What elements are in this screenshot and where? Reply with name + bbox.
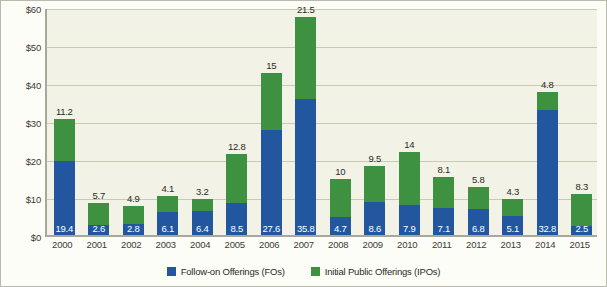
bar-stack[interactable]: 4.832.8 bbox=[537, 92, 558, 235]
x-axis-tick-label: 2012 bbox=[459, 239, 494, 250]
bar-group: 11.219.45.72.64.92.84.16.13.26.412.88.51… bbox=[47, 9, 597, 235]
bar-stack[interactable]: 5.86.8 bbox=[468, 187, 489, 235]
bar-segment-fo[interactable]: 6.4 bbox=[192, 211, 213, 235]
bar-stack[interactable]: 21.535.8 bbox=[295, 17, 316, 235]
bar-stack[interactable]: 4.35.1 bbox=[502, 199, 523, 235]
bar-segment-ipo[interactable]: 4.3 bbox=[502, 199, 523, 215]
bar-label-ipo: 10 bbox=[322, 166, 359, 179]
bar-segment-ipo[interactable]: 3.2 bbox=[192, 199, 213, 211]
x-axis-tick-label: 2001 bbox=[80, 239, 115, 250]
x-axis-tick-label: 2002 bbox=[114, 239, 149, 250]
bar-segment-ipo[interactable]: 4.9 bbox=[123, 206, 144, 225]
x-axis-tick-label: 2015 bbox=[563, 239, 598, 250]
y-axis-tick-label: $10 bbox=[26, 194, 41, 205]
bar-label-fo: 32.8 bbox=[537, 223, 558, 234]
bar-segment-fo[interactable]: 6.8 bbox=[468, 209, 489, 235]
bar-label-fo: 4.7 bbox=[330, 223, 351, 234]
bar-segment-fo[interactable]: 7.1 bbox=[433, 208, 454, 235]
bar-segment-fo[interactable]: 7.9 bbox=[399, 205, 420, 235]
bar-label-ipo: 5.7 bbox=[80, 190, 117, 203]
bar-stack[interactable]: 1527.6 bbox=[261, 73, 282, 235]
legend-item[interactable]: Follow-on Offerings (FOs) bbox=[167, 266, 285, 277]
bar-segment-ipo[interactable]: 8.3 bbox=[571, 194, 592, 226]
bar-segment-fo[interactable]: 4.7 bbox=[330, 217, 351, 235]
legend-swatch-icon bbox=[167, 267, 176, 276]
bar-segment-fo[interactable]: 2.5 bbox=[571, 226, 592, 236]
bar-segment-ipo[interactable]: 15 bbox=[261, 73, 282, 130]
bar-stack[interactable]: 12.88.5 bbox=[226, 154, 247, 235]
bar-segment-ipo[interactable]: 4.8 bbox=[537, 92, 558, 110]
bar-segment-ipo[interactable]: 10 bbox=[330, 179, 351, 217]
bar-segment-ipo[interactable]: 5.7 bbox=[88, 203, 109, 225]
bar-label-ipo: 15 bbox=[253, 60, 290, 73]
bar-label-ipo: 21.5 bbox=[287, 4, 324, 17]
y-axis-tick-label: $30 bbox=[26, 118, 41, 129]
bar-stack[interactable]: 9.58.6 bbox=[364, 166, 385, 235]
legend-label: Initial Public Offerings (IPOs) bbox=[325, 266, 441, 277]
y-axis-tick-label: $40 bbox=[26, 80, 41, 91]
y-axis: $0$10$20$30$40$50$60 bbox=[1, 1, 45, 237]
bar-label-ipo: 4.3 bbox=[494, 186, 531, 199]
bar-segment-fo[interactable]: 27.6 bbox=[261, 130, 282, 235]
bar-segment-ipo[interactable]: 12.8 bbox=[226, 154, 247, 203]
bar-segment-ipo[interactable]: 21.5 bbox=[295, 17, 316, 99]
bar-segment-ipo[interactable]: 8.1 bbox=[433, 177, 454, 208]
bar-segment-fo[interactable]: 8.6 bbox=[364, 202, 385, 235]
x-axis-tick-label: 2004 bbox=[183, 239, 218, 250]
bar-segment-fo[interactable]: 6.1 bbox=[157, 212, 178, 235]
bar-segment-fo[interactable]: 8.5 bbox=[226, 203, 247, 235]
bar-stack[interactable]: 3.26.4 bbox=[192, 199, 213, 235]
bar-stack[interactable]: 104.7 bbox=[330, 179, 351, 235]
chart-legend: Follow-on Offerings (FOs)Initial Public … bbox=[1, 263, 606, 279]
bar-segment-ipo[interactable]: 9.5 bbox=[364, 166, 385, 202]
bar-label-fo: 2.8 bbox=[123, 223, 144, 234]
x-axis-tick-label: 2005 bbox=[218, 239, 253, 250]
bar-label-ipo: 3.2 bbox=[184, 186, 221, 199]
bar-segment-fo[interactable]: 32.8 bbox=[537, 110, 558, 235]
x-axis-tick-label: 2003 bbox=[149, 239, 184, 250]
bar-segment-ipo[interactable]: 4.1 bbox=[157, 196, 178, 212]
bar-label-fo: 8.5 bbox=[226, 223, 247, 234]
bar-segment-fo[interactable]: 35.8 bbox=[295, 99, 316, 235]
bar-label-fo: 7.9 bbox=[399, 223, 420, 234]
bar-stack[interactable]: 11.219.4 bbox=[54, 119, 75, 235]
legend-swatch-icon bbox=[311, 267, 320, 276]
bar-stack[interactable]: 4.92.8 bbox=[123, 206, 144, 235]
bar-segment-fo[interactable]: 19.4 bbox=[54, 161, 75, 235]
x-axis: 2000200120022003200420052006200720082009… bbox=[45, 239, 597, 255]
bar-stack[interactable]: 4.16.1 bbox=[157, 196, 178, 235]
x-axis-tick-label: 2011 bbox=[425, 239, 460, 250]
bar-segment-fo[interactable]: 5.1 bbox=[502, 216, 523, 235]
bar-segment-ipo[interactable]: 14 bbox=[399, 152, 420, 205]
bar-stack[interactable]: 147.9 bbox=[399, 152, 420, 235]
bar-label-ipo: 4.9 bbox=[115, 193, 152, 206]
bar-label-ipo: 4.8 bbox=[529, 79, 566, 92]
y-axis-tick-label: $20 bbox=[26, 156, 41, 167]
bar-label-ipo: 12.8 bbox=[218, 141, 255, 154]
y-axis-tick-label: $50 bbox=[26, 42, 41, 53]
bar-label-ipo: 11.2 bbox=[46, 106, 83, 119]
plot-area: 11.219.45.72.64.92.84.16.13.26.412.88.51… bbox=[45, 9, 597, 237]
legend-item[interactable]: Initial Public Offerings (IPOs) bbox=[311, 266, 441, 277]
bar-segment-ipo[interactable]: 5.8 bbox=[468, 187, 489, 209]
bar-label-fo: 2.5 bbox=[571, 223, 592, 234]
bar-label-ipo: 14 bbox=[391, 139, 428, 152]
bar-label-fo: 6.8 bbox=[468, 223, 489, 234]
bar-label-fo: 2.6 bbox=[88, 223, 109, 234]
bar-segment-fo[interactable]: 2.8 bbox=[123, 224, 144, 235]
bar-segment-ipo[interactable]: 11.2 bbox=[54, 119, 75, 162]
bar-label-fo: 7.1 bbox=[433, 223, 454, 234]
bar-label-fo: 6.4 bbox=[192, 223, 213, 234]
bar-label-ipo: 5.8 bbox=[460, 174, 497, 187]
bar-stack[interactable]: 8.32.5 bbox=[571, 194, 592, 235]
y-axis-tick-label: $0 bbox=[31, 232, 41, 243]
bar-segment-fo[interactable]: 2.6 bbox=[88, 225, 109, 235]
bar-stack[interactable]: 5.72.6 bbox=[88, 203, 109, 235]
bar-label-fo: 27.6 bbox=[261, 223, 282, 234]
x-axis-tick-label: 2008 bbox=[321, 239, 356, 250]
bar-label-ipo: 8.1 bbox=[425, 164, 462, 177]
bar-label-ipo: 8.3 bbox=[563, 181, 600, 194]
bar-stack[interactable]: 8.17.1 bbox=[433, 177, 454, 235]
x-axis-tick-label: 2007 bbox=[287, 239, 322, 250]
stacked-bar-chart: $0$10$20$30$40$50$60 11.219.45.72.64.92.… bbox=[0, 0, 607, 287]
